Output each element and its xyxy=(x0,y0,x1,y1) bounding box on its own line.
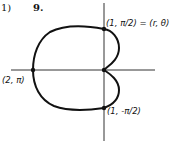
point-bottom xyxy=(102,106,106,110)
problem-number: 9. xyxy=(33,2,43,13)
label-top-point: (1, π/2) = (r, θ) xyxy=(106,18,169,28)
label-bottom-point: (1, -π/2) xyxy=(107,106,141,116)
part-label: 1) xyxy=(1,2,11,13)
label-left-point: (2, π) xyxy=(2,75,25,85)
cardioid-curve xyxy=(33,26,119,110)
point-left xyxy=(31,68,35,72)
point-pole xyxy=(102,68,106,72)
cardioid-diagram: 1) 9. (1, π/2) = (r, θ) (2, π) (1, -π/2) xyxy=(0,0,188,144)
